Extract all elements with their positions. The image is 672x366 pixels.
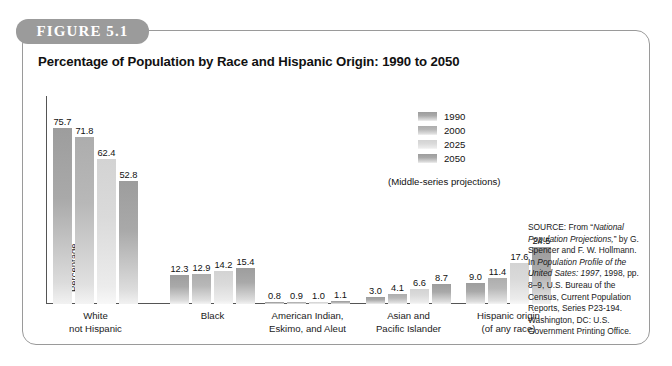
legend-swatch [418, 126, 437, 135]
bar: 1.1 [331, 96, 350, 304]
bar-rect [466, 283, 485, 304]
bar-value-label: 11.4 [489, 267, 506, 277]
bar-value-label: 4.1 [391, 283, 404, 293]
bar-value-label: 17.6 [510, 252, 528, 262]
legend-note: (Middle-series projections) [388, 176, 501, 187]
bar-rect [410, 289, 429, 304]
bar-rect [287, 302, 306, 304]
legend-swatch [418, 112, 437, 121]
bar-value-label: 14.2 [214, 260, 232, 270]
bar: 15.4 [236, 96, 255, 304]
bar-value-label: 62.4 [97, 148, 115, 158]
bar: 14.2 [214, 96, 233, 304]
category-label: American Indian,Eskimo, and Aleut [269, 310, 346, 335]
figure-tab-label: FIGURE 5.1 [16, 19, 149, 44]
bar-rect [432, 284, 451, 304]
bar-rect [170, 275, 189, 304]
bar-rect [331, 301, 350, 304]
category-label: Whitenot Hispanic [69, 310, 122, 335]
bar: 0.9 [287, 96, 306, 304]
legend-item: 1990 [418, 110, 465, 123]
bar: 62.4 [97, 96, 116, 304]
bar-value-label: 1.0 [312, 291, 325, 301]
bar: 17.6 [510, 96, 529, 304]
y-axis-line [46, 96, 47, 304]
bar: 9.0 [466, 96, 485, 304]
bar-rect [388, 294, 407, 304]
bar-rect [97, 159, 116, 304]
bar-rect [510, 263, 529, 304]
bar-value-label: 12.3 [170, 264, 188, 274]
bar-rect [236, 268, 255, 304]
chart-legend: 1990200020252050 [418, 110, 465, 166]
bar: 0.8 [265, 96, 284, 304]
bar-value-label: 6.6 [413, 278, 426, 288]
legend-item: 2000 [418, 124, 465, 137]
source-note: SOURCE: From “National Population Projec… [528, 222, 640, 338]
bar: 12.9 [192, 96, 211, 304]
chart-title: Percentage of Population by Race and His… [38, 54, 459, 69]
category-label: Black [201, 310, 224, 323]
bar-value-label: 12.9 [192, 263, 210, 273]
bar-rect [119, 181, 138, 304]
bar-value-label: 52.8 [119, 170, 137, 180]
bar-rect [214, 271, 233, 304]
bar-rect [265, 302, 284, 304]
bar-value-label: 9.0 [469, 272, 482, 282]
legend-label: 2050 [444, 153, 465, 164]
legend-item: 2050 [418, 152, 465, 165]
bar-value-label: 0.9 [290, 291, 303, 301]
bar-value-label: 0.8 [268, 291, 281, 301]
bar-rect [192, 274, 211, 304]
category-label: Asian andPacific Islander [376, 310, 441, 335]
bar-rect [366, 297, 385, 304]
bar-value-label: 75.7 [53, 117, 71, 127]
bar-rect [488, 278, 507, 305]
bar-rect [53, 128, 72, 304]
bar: 75.7 [53, 96, 72, 304]
legend-label: 2000 [444, 125, 465, 136]
bar: 3.0 [366, 96, 385, 304]
bar: 52.8 [119, 96, 138, 304]
legend-item: 2025 [418, 138, 465, 151]
bar: 12.3 [170, 96, 189, 304]
legend-swatch [418, 154, 437, 163]
legend-swatch [418, 140, 437, 149]
bar-value-label: 3.0 [369, 286, 382, 296]
legend-label: 1990 [444, 111, 465, 122]
bar: 1.0 [309, 96, 328, 304]
bar-value-label: 71.8 [75, 126, 93, 136]
legend-label: 2025 [444, 139, 465, 150]
bar-value-label: 15.4 [236, 257, 254, 267]
bar: 4.1 [388, 96, 407, 304]
bar-rect [75, 137, 94, 304]
bar-rect [309, 302, 328, 304]
bar-value-label: 8.7 [435, 273, 448, 283]
bar: 11.4 [488, 96, 507, 304]
bar-value-label: 1.1 [334, 290, 347, 300]
bar: 71.8 [75, 96, 94, 304]
